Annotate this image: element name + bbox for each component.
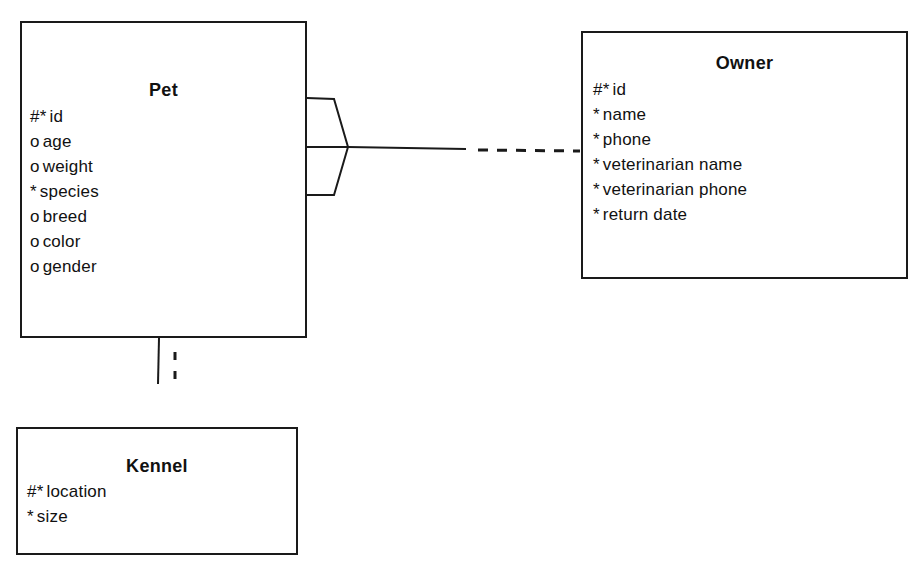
attribute-return-date: *return date (593, 202, 747, 227)
attribute-marker: o (30, 229, 40, 254)
attribute-marker: * (30, 179, 37, 204)
entity-owner[interactable]: Owner #*id *name *phone *veterinarian na… (581, 31, 908, 279)
attribute-list: #*location *size (27, 479, 107, 529)
attribute-name: size (37, 507, 68, 526)
relationship-solid-segment (158, 338, 159, 384)
attribute-name: id (612, 80, 626, 99)
entity-title: Owner (583, 53, 906, 74)
attribute-breed: obreed (30, 204, 99, 229)
attribute-veterinarian-phone: *veterinarian phone (593, 177, 747, 202)
attribute-location: #*location (27, 479, 107, 504)
attribute-marker: #* (27, 479, 43, 504)
attribute-name: *name (593, 102, 747, 127)
attribute-name: age (43, 132, 72, 151)
attribute-marker: #* (30, 104, 46, 129)
attribute-gender: ogender (30, 254, 99, 279)
attribute-name: species (40, 182, 99, 201)
attribute-name: weight (43, 157, 93, 176)
attribute-name: veterinarian phone (603, 180, 747, 199)
attribute-name: name (603, 105, 646, 124)
attribute-marker: #* (593, 77, 609, 102)
entity-kennel[interactable]: Kennel #*location *size (16, 427, 298, 555)
attribute-marker: * (593, 102, 600, 127)
relationship-dashed-segment (478, 150, 580, 151)
attribute-marker: * (27, 504, 34, 529)
entity-title: Kennel (18, 456, 296, 477)
attribute-id: #*id (30, 104, 99, 129)
attribute-list: #*id *name *phone *veterinarian name *ve… (593, 77, 747, 227)
attribute-age: oage (30, 129, 99, 154)
entity-pet[interactable]: Pet #*id oage oweight *species obreed oc… (20, 21, 307, 338)
attribute-name: veterinarian name (603, 155, 742, 174)
attribute-veterinarian-name: *veterinarian name (593, 152, 747, 177)
attribute-marker: * (593, 152, 600, 177)
attribute-marker: o (30, 154, 40, 179)
attribute-name: breed (43, 207, 87, 226)
attribute-size: *size (27, 504, 107, 529)
attribute-marker: o (30, 129, 40, 154)
attribute-marker: o (30, 204, 40, 229)
attribute-name: phone (603, 130, 651, 149)
attribute-species: *species (30, 179, 99, 204)
attribute-list: #*id oage oweight *species obreed ocolor… (30, 104, 99, 279)
attribute-name: id (49, 107, 63, 126)
attribute-name: return date (603, 205, 687, 224)
relationship-pet-owner (307, 98, 580, 195)
attribute-marker: * (593, 177, 600, 202)
attribute-id: #*id (593, 77, 747, 102)
relationship-pet-kennel (158, 338, 175, 384)
attribute-name: gender (43, 257, 97, 276)
attribute-marker: * (593, 202, 600, 227)
attribute-color: ocolor (30, 229, 99, 254)
entity-title: Pet (22, 80, 305, 101)
attribute-phone: *phone (593, 127, 747, 152)
attribute-marker: o (30, 254, 40, 279)
attribute-name: location (46, 482, 106, 501)
attribute-weight: oweight (30, 154, 99, 179)
relationship-solid-segment (348, 147, 466, 149)
attribute-marker: * (593, 127, 600, 152)
attribute-name: color (43, 232, 81, 251)
